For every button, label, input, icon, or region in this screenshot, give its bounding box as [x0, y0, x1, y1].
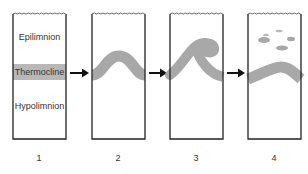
water-surface-icon: [92, 13, 145, 14]
label-epilimnion: Epilimnion: [13, 32, 66, 42]
mixed-thermocline-band: [248, 67, 301, 79]
label-hypolimnion: Hypolimnion: [13, 101, 66, 111]
diagram-canvas: [0, 0, 308, 174]
panel-3: [170, 13, 223, 139]
mixed-patch: [287, 37, 295, 41]
thermocline-wave: [92, 56, 145, 75]
mixed-patch: [276, 30, 283, 33]
arrow-1-to-2: [70, 69, 89, 78]
label-thermocline: Thermocline: [13, 67, 66, 77]
mixed-patch: [276, 46, 288, 51]
mixed-patch: [258, 37, 270, 43]
arrow-2-to-3: [149, 69, 167, 78]
panel-number-3: 3: [186, 153, 206, 163]
water-surface-icon: [170, 13, 223, 14]
mixed-patch: [263, 34, 269, 36]
water-surface-icon: [248, 13, 301, 14]
panel-number-2: 2: [108, 153, 128, 163]
panel-4: [248, 13, 301, 139]
panel-2: [92, 13, 145, 139]
panel-number-4: 4: [264, 153, 284, 163]
arrow-3-to-4: [227, 69, 245, 78]
panel-number-1: 1: [29, 153, 49, 163]
water-surface-icon: [13, 13, 66, 14]
